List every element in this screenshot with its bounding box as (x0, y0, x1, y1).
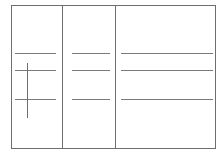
cursor-marker-icon (27, 63, 28, 118)
col1-line-2 (15, 70, 56, 71)
column-divider-2 (115, 5, 116, 149)
column-divider-1 (62, 5, 63, 149)
col2-line-1 (72, 53, 110, 54)
col2-line-2 (72, 70, 110, 71)
col3-line-1 (121, 53, 213, 54)
col3-line-3 (121, 99, 213, 100)
col3-line-2 (121, 70, 213, 71)
col1-line-1 (15, 53, 56, 54)
col2-line-3 (72, 99, 110, 100)
wireframe-frame (11, 5, 216, 149)
col1-line-3 (15, 99, 56, 100)
